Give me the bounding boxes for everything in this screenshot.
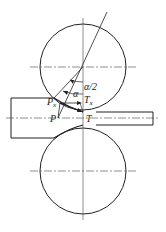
half-angle-arrow-icon [70, 80, 74, 84]
workpiece-exit [96, 112, 153, 125]
label-Px: Px [46, 96, 57, 109]
rolling-diagram: α/2 α Tx Px P T [0, 0, 166, 232]
angle-arrow-icon [63, 91, 68, 95]
label-Tx: Tx [84, 94, 94, 107]
label-angle: α [73, 88, 79, 99]
label-P: P [49, 113, 56, 124]
label-T: T [86, 113, 93, 124]
label-half-angle: α/2 [84, 81, 97, 92]
force-Tx-arrow-icon [77, 101, 82, 105]
contact-radius [54, 67, 83, 98]
